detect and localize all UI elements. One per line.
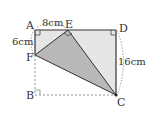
label-d: D bbox=[119, 22, 128, 35]
measure-af: 6cm bbox=[12, 36, 34, 47]
right-angle-b bbox=[35, 90, 40, 95]
label-b: B bbox=[26, 89, 34, 102]
geometry-diagram: A E D F B C 8cm 6cm 16cm bbox=[0, 0, 151, 113]
measure-ae: 8cm bbox=[42, 17, 64, 28]
label-e: E bbox=[65, 18, 73, 31]
measure-dc: 16cm bbox=[118, 56, 146, 67]
label-a: A bbox=[25, 19, 35, 32]
label-f: F bbox=[26, 51, 34, 64]
label-c: C bbox=[117, 96, 125, 109]
